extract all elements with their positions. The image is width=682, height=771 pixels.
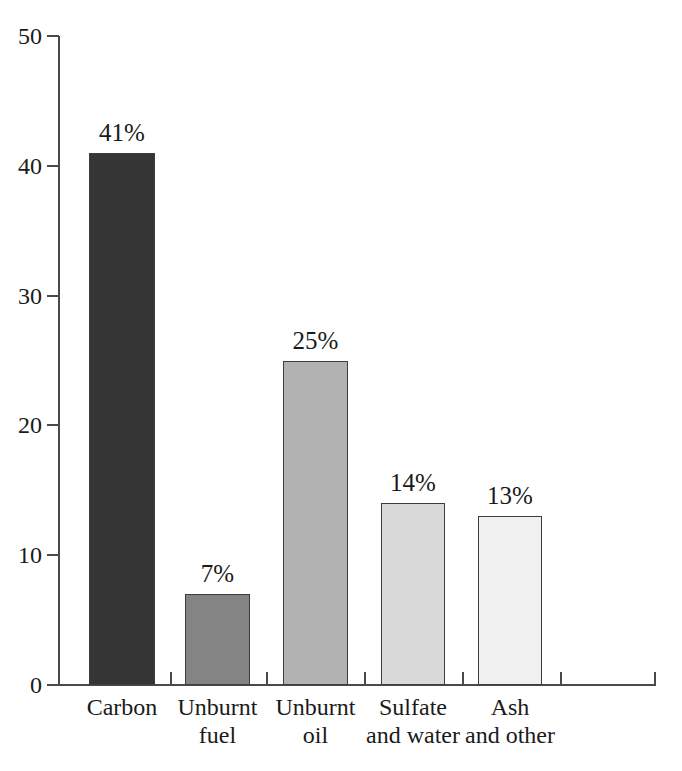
- bar[interactable]: [283, 361, 348, 686]
- bar-value-label: 41%: [99, 120, 145, 145]
- bar-group: 13%: [478, 36, 542, 685]
- category-label-line: Ash: [430, 694, 590, 722]
- bar-group: 25%: [283, 36, 348, 685]
- bar-group: 14%: [381, 36, 445, 685]
- bar-value-label: 7%: [201, 561, 234, 586]
- bar[interactable]: [185, 594, 250, 685]
- x-axis-category-label: Ashand other: [430, 694, 590, 750]
- bars-layer: 41%7%25%14%13%: [0, 36, 682, 685]
- bar[interactable]: [381, 503, 445, 685]
- bar-value-label: 14%: [390, 470, 436, 495]
- bar-group: 41%: [89, 36, 155, 685]
- bar-group: 7%: [185, 36, 250, 685]
- bar-value-label: 13%: [487, 483, 533, 508]
- bar[interactable]: [478, 516, 542, 685]
- category-label-line: and other: [430, 722, 590, 750]
- bar-value-label: 25%: [293, 328, 339, 353]
- bar-chart-figure: 50403020100 41%7%25%14%13% CarbonUnburnt…: [0, 0, 682, 771]
- bar[interactable]: [89, 153, 155, 685]
